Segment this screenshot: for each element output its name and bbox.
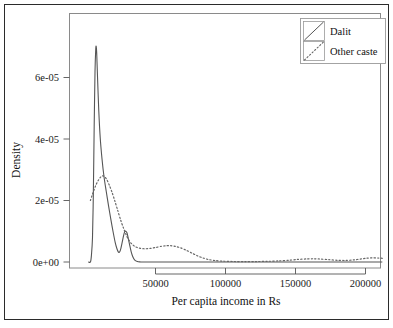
y-tick-label-1: 2e-05 (35, 195, 59, 206)
x-tick-label-3: 200000 (350, 278, 382, 289)
y-axis-ticks (64, 78, 70, 263)
y-tick-label-0: 0e+00 (33, 257, 59, 268)
x-tick-label-0: 50000 (142, 278, 168, 289)
y-tick-label-3: 6e-05 (35, 72, 59, 83)
x-axis-title: Per capita income in Rs (171, 295, 281, 308)
y-axis-title: Density (10, 142, 23, 178)
chart-figure: 0e+00 2e-05 4e-05 6e-05 Density 50000 10… (0, 0, 393, 328)
x-tick-label-1: 100000 (210, 278, 242, 289)
legend-label-other-caste: Other caste (330, 46, 378, 57)
x-tick-label-2: 150000 (280, 278, 312, 289)
legend-label-dalit: Dalit (330, 26, 351, 37)
legend[interactable]: Dalit Other caste (301, 19, 386, 64)
x-axis-ticks (156, 268, 366, 274)
density-plot: 0e+00 2e-05 4e-05 6e-05 Density 50000 10… (0, 0, 393, 328)
y-tick-label-2: 4e-05 (35, 134, 59, 145)
